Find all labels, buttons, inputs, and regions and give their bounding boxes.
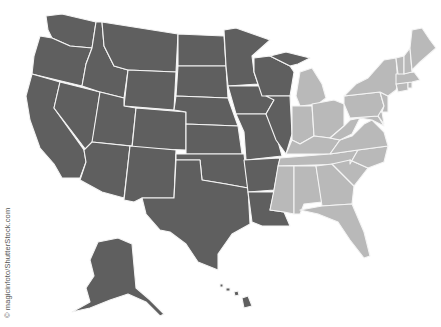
state-pennsylvania (344, 92, 384, 118)
state-florida (300, 204, 370, 258)
state-hawaii-kauai (220, 284, 223, 287)
state-hawaii-big (242, 296, 252, 308)
state-vermont (396, 56, 404, 74)
state-montana (102, 22, 178, 72)
state-arizona (80, 142, 130, 198)
photo-credit: © magicinfoto/ShutterStock.com (3, 208, 12, 318)
state-alaska (72, 238, 164, 316)
state-hawaii-maui (234, 291, 239, 296)
state-hawaii-oahu (226, 288, 230, 291)
state-wyoming (124, 70, 176, 110)
state-colorado (132, 108, 186, 150)
us-map (0, 0, 441, 327)
state-south-dakota (176, 66, 228, 98)
state-maine (410, 28, 436, 70)
state-new-york (344, 58, 398, 96)
state-north-dakota (178, 34, 226, 66)
state-michigan (296, 68, 326, 106)
state-kansas (186, 124, 242, 154)
state-new-mexico (124, 146, 176, 202)
